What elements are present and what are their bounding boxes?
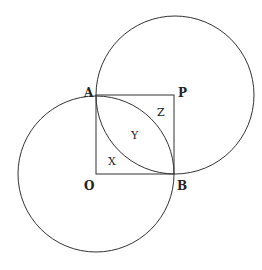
- point-label-a: A: [83, 86, 94, 100]
- region-label-x: X: [108, 155, 116, 168]
- geometry-diagram: A P O B Z Y X: [0, 0, 262, 270]
- point-label-b: B: [177, 179, 187, 193]
- region-label-z: Z: [157, 106, 165, 119]
- region-label-y: Y: [130, 129, 139, 142]
- point-label-o: O: [84, 179, 94, 193]
- point-label-p: P: [178, 86, 187, 100]
